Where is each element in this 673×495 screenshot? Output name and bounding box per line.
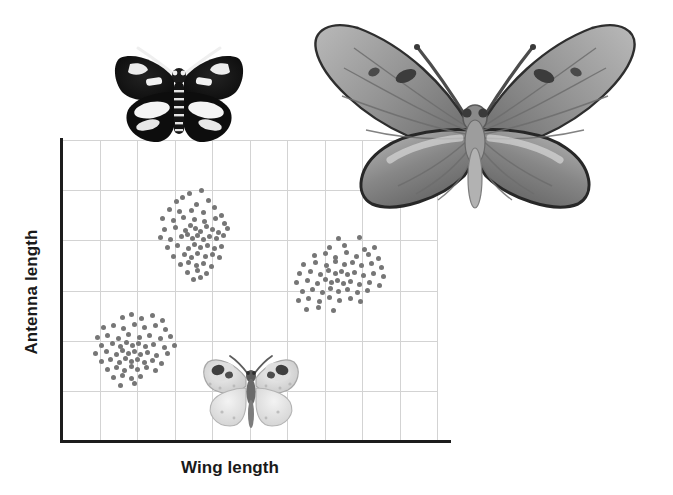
scatter-point [179, 234, 184, 239]
scatter-point [305, 278, 310, 283]
scatter-point [352, 270, 357, 275]
scatter-point [101, 325, 106, 330]
scatter-point [221, 233, 226, 238]
scatter-point [365, 288, 370, 293]
scatter-point [212, 246, 217, 251]
scatter-point [376, 256, 381, 261]
scatter-point [317, 299, 322, 304]
scatter-point [371, 271, 376, 276]
scatter-point [191, 277, 196, 282]
scatter-point [214, 236, 219, 241]
x-axis-line [60, 440, 451, 443]
scatter-point [158, 336, 163, 341]
scatter-point [379, 265, 384, 270]
scatter-point [188, 223, 193, 228]
scatter-point [337, 298, 342, 303]
scatter-point [189, 208, 194, 213]
scatter-point [366, 252, 371, 257]
y-axis-label: Antenna length [22, 192, 42, 392]
scatter-point [178, 262, 183, 267]
scatter-point [99, 359, 104, 364]
scatter-point [104, 349, 109, 354]
scatter-point [201, 237, 206, 242]
scatter-point [182, 252, 187, 257]
scatter-point [206, 198, 211, 203]
scatter-point [150, 313, 155, 318]
scatter-point [171, 218, 176, 223]
scatter-point [175, 243, 180, 248]
scatter-point [153, 323, 158, 328]
scatter-point [348, 296, 353, 301]
y-axis-line [60, 138, 63, 443]
scatter-point [296, 298, 301, 303]
scatter-point [165, 351, 170, 356]
scatter-point [167, 207, 172, 212]
scatter-point [355, 290, 360, 295]
scatter-point [315, 281, 320, 286]
large-butterfly-image [296, 12, 654, 216]
scatter-point [194, 202, 199, 207]
figure-root: Wing length Antenna length [0, 0, 673, 495]
scatter-point [177, 209, 182, 214]
scatter-point [158, 235, 163, 240]
scatter-point [345, 272, 350, 277]
scatter-point [313, 260, 318, 265]
scatter-point [165, 245, 170, 250]
x-axis-label: Wing length [0, 458, 460, 478]
scatter-point [116, 336, 121, 341]
scatter-point [105, 367, 110, 372]
scatter-point [339, 269, 344, 274]
scatter-point [357, 235, 362, 240]
scatter-point [192, 217, 197, 222]
dark-moth-image [106, 30, 252, 148]
scatter-point [367, 280, 372, 285]
scatter-point [137, 335, 142, 340]
scatter-point [190, 236, 195, 241]
scatter-point [359, 263, 364, 268]
scatter-point [114, 352, 119, 357]
scatter-point [129, 364, 134, 369]
scatter-point [203, 254, 208, 259]
scatter-point [358, 299, 363, 304]
scatter-point [377, 283, 382, 288]
scatter-point [361, 273, 366, 278]
scatter-point [120, 315, 125, 320]
scatter-point [333, 271, 338, 276]
scatter-point [217, 255, 222, 260]
scatter-point [300, 289, 305, 294]
scatter-point [318, 272, 323, 277]
scatter-point [342, 262, 347, 267]
scatter-point [110, 341, 115, 346]
scatter-point [328, 286, 333, 291]
scatter-point [219, 213, 224, 218]
scatter-point [225, 226, 230, 231]
scatter-point [160, 216, 165, 221]
scatter-point [327, 245, 332, 250]
scatter-point [174, 199, 179, 204]
scatter-point [205, 243, 210, 248]
scatter-point [210, 252, 215, 257]
scatter-point [336, 236, 341, 241]
scatter-point [344, 250, 349, 255]
scatter-point [212, 205, 217, 210]
scatter-point [320, 290, 325, 295]
scatter-point [173, 225, 178, 230]
scatter-point [323, 277, 328, 282]
scatter-point [310, 287, 315, 292]
pale-butterfly-image [196, 340, 304, 434]
scatter-point [335, 278, 340, 283]
scatter-point [329, 280, 334, 285]
scatter-point [132, 322, 137, 327]
scatter-point [181, 215, 186, 220]
scatter-point [301, 262, 306, 267]
scatter-point [341, 281, 346, 286]
scatter-point [213, 216, 218, 221]
scatter-point [222, 221, 227, 226]
scatter-point [350, 260, 355, 265]
scatter-point [95, 335, 100, 340]
scatter-point [195, 251, 200, 256]
gridline-horizontal [62, 240, 437, 241]
scatter-point [326, 268, 331, 273]
scatter-point [323, 251, 328, 256]
scatter-point [144, 365, 149, 370]
